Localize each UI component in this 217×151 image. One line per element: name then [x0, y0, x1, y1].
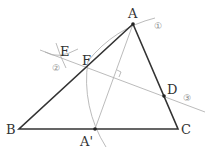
arc-from-b: [87, 18, 155, 147]
label-e: E: [60, 44, 70, 59]
point-aprime: [93, 127, 97, 131]
label-a: A: [127, 6, 138, 21]
point-d: [162, 94, 166, 98]
label-aprime: A': [79, 134, 93, 149]
step-marker-1: ①: [154, 21, 162, 31]
geometry-diagram: A B C A' D E F ① ② ③: [0, 0, 217, 151]
point-a: [131, 22, 135, 26]
label-b: B: [6, 122, 16, 137]
step-marker-2: ②: [52, 63, 60, 73]
right-angle-mark: [117, 70, 121, 77]
step-marker-3: ③: [183, 93, 191, 103]
bisector-line: [40, 50, 205, 112]
triangle-abc: [19, 24, 178, 129]
label-d: D: [167, 82, 177, 97]
segment-a-aprime: [95, 24, 133, 129]
label-c: C: [181, 122, 191, 137]
label-f: F: [82, 53, 91, 68]
